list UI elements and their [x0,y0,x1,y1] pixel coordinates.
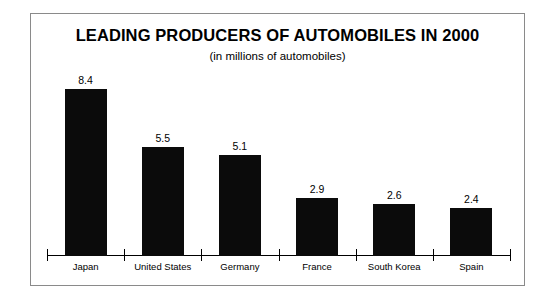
bar-value-label: 5.5 [155,132,170,144]
bar-value-label: 8.4 [78,74,93,86]
chart-subtitle: (in millions of automobiles) [31,48,524,64]
bar-value-label: 2.6 [387,189,402,201]
bar-group: 8.4Japan [47,71,124,256]
bar-value-label: 5.1 [233,140,248,152]
bar-group: 2.6South Korea [356,71,433,256]
plot-area: 8.4Japan5.5United States5.1Germany2.9Fra… [47,71,510,256]
bar-group: 5.5United States [124,71,201,256]
bar [142,147,184,256]
category-label: South Korea [368,261,421,273]
category-label: Germany [220,261,259,273]
bar-group: 2.4Spain [433,71,510,256]
bar [296,198,338,256]
bar-value-label: 2.4 [464,193,479,205]
bar-group: 2.9France [279,71,356,256]
chart-title-block: LEADING PRODUCERS OF AUTOMOBILES IN 2000… [31,25,524,64]
page-title: LEADING PRODUCERS OF AUTOMOBILES IN 2000 [31,25,524,45]
bar-group: 5.1Germany [201,71,278,256]
axis-tick [510,249,511,261]
bar [65,89,107,256]
bar [219,155,261,256]
category-label: Spain [459,261,483,273]
category-label: France [302,261,332,273]
category-label: Japan [73,261,99,273]
category-label: United States [134,261,191,273]
bar-value-label: 2.9 [310,183,325,195]
chart-frame: LEADING PRODUCERS OF AUTOMOBILES IN 2000… [30,13,525,286]
bar [450,208,492,256]
bar [373,204,415,256]
